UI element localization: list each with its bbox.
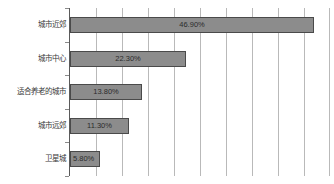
category-label: 城市近郊 <box>0 20 66 30</box>
axis-tick <box>65 176 69 177</box>
axis-tick <box>65 75 69 76</box>
category-label: 城市中心 <box>0 54 66 64</box>
bar-row: 城市近郊 46.90% <box>0 17 334 33</box>
category-label: 城市远郊 <box>0 121 66 131</box>
bar-row: 城市中心 22.30% <box>0 51 334 67</box>
category-label: 卫星城 <box>0 154 66 164</box>
axis-tick <box>65 109 69 110</box>
chart-title <box>0 0 334 3</box>
axis-tick <box>65 42 69 43</box>
bar-row: 城市远郊 11.30% <box>0 118 334 134</box>
bar-row: 适合养老的城市 13.80% <box>0 84 334 100</box>
bar-row: 卫星城 5.80% <box>0 151 334 167</box>
axis-tick <box>65 142 69 143</box>
bar-chart: 城市近郊 46.90% 城市中心 22.30% 适合养老的城市 13.80% 城… <box>0 0 334 184</box>
bar-value-label: 5.80% <box>73 154 113 164</box>
bar-value-label: 13.80% <box>70 87 142 97</box>
bar-value-label: 46.90% <box>70 20 314 30</box>
bar-value-label: 11.30% <box>70 121 129 131</box>
axis-tick <box>65 8 69 9</box>
category-label: 适合养老的城市 <box>0 87 66 97</box>
bar-value-label: 22.30% <box>70 54 186 64</box>
